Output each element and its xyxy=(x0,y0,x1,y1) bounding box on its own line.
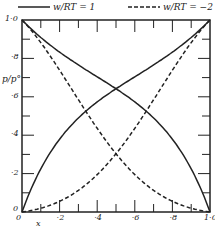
series-line xyxy=(22,20,210,212)
y-tick-label: 1·0 xyxy=(5,14,18,23)
y-tick-label: ·4 xyxy=(11,129,19,138)
x-axis-label: x xyxy=(36,219,41,228)
axes-frame xyxy=(22,20,210,212)
y-axis-label: p/p° xyxy=(2,74,21,84)
x-tick-label: ·4 xyxy=(94,213,102,222)
series-line xyxy=(22,20,210,212)
x-tick-label: ·8 xyxy=(169,213,177,222)
y-tick-label: ·2 xyxy=(11,168,19,177)
y-tick-label: 0 xyxy=(13,204,18,213)
x-tick-label: ·2 xyxy=(57,213,65,222)
series-line xyxy=(22,20,210,212)
x-tick-label: 1·0 xyxy=(204,213,215,222)
plot-area xyxy=(0,0,215,232)
series-line xyxy=(22,20,210,212)
x-tick-label: ·6 xyxy=(132,213,140,222)
y-tick-label: ·6 xyxy=(11,91,19,100)
x-tick-label: 0 xyxy=(16,213,21,222)
y-tick-label: ·8 xyxy=(11,52,19,61)
